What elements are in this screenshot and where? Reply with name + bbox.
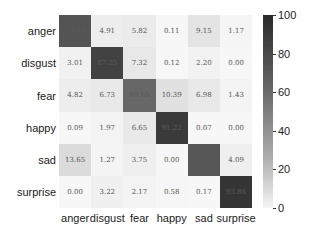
heatmap-cell: 0.00 <box>220 47 252 79</box>
row-label: surprise <box>17 186 56 198</box>
heatmap-cell: 3.22 <box>91 176 123 208</box>
heatmap-cell: 78.84 <box>59 15 91 47</box>
column-label: disgust <box>90 212 125 224</box>
heatmap-cell: 0.00 <box>220 112 252 144</box>
heatmap-cell: 6.73 <box>91 79 123 111</box>
heatmap-cell: 77.24 <box>188 144 220 176</box>
colorbar-tick <box>273 208 276 209</box>
confusion-matrix-heatmap: angerdisgustfearhappysadsurpriseangerdis… <box>0 0 309 235</box>
column-label: happy <box>157 212 187 224</box>
colorbar-tick-label: 40 <box>278 125 290 137</box>
column-label: fear <box>130 212 149 224</box>
heatmap-cell: 87.35 <box>91 47 123 79</box>
colorbar-tick <box>273 15 276 16</box>
colorbar-tick <box>273 169 276 170</box>
colorbar-tick <box>273 131 276 132</box>
colorbar <box>263 15 273 208</box>
heatmap-cell: 9.15 <box>188 15 220 47</box>
heatmap-cell: 93.86 <box>220 176 252 208</box>
colorbar-tick-label: 0 <box>278 202 284 214</box>
colorbar-tick-label: 100 <box>278 9 296 21</box>
heatmap-cell: 91.22 <box>156 112 188 144</box>
heatmap-cell: 0.07 <box>188 112 220 144</box>
heatmap-cell: 10.39 <box>156 79 188 111</box>
heatmap-cell: 0.12 <box>156 47 188 79</box>
column-label: sad <box>195 212 213 224</box>
heatmap-cell: 6.65 <box>123 112 155 144</box>
heatmap-cell: 6.98 <box>188 79 220 111</box>
colorbar-tick <box>273 92 276 93</box>
row-label: fear <box>37 90 56 102</box>
heatmap-cell: 0.17 <box>188 176 220 208</box>
row-label: disgust <box>21 57 56 69</box>
heatmap-cell: 4.82 <box>59 79 91 111</box>
heatmap-cell: 2.17 <box>123 176 155 208</box>
heatmap-cell: 4.09 <box>220 144 252 176</box>
heatmap-cell: 5.82 <box>123 15 155 47</box>
heatmap-cell: 13.65 <box>59 144 91 176</box>
heatmap-cell: 2.20 <box>188 47 220 79</box>
heatmap-cell: 0.00 <box>59 176 91 208</box>
heatmap-cell: 3.01 <box>59 47 91 79</box>
heatmap-cell: 0.00 <box>156 144 188 176</box>
colorbar-tick-label: 80 <box>278 48 290 60</box>
heatmap-cell: 1.43 <box>220 79 252 111</box>
colorbar-tick-label: 60 <box>278 86 290 98</box>
heatmap-cell: 7.32 <box>123 47 155 79</box>
column-label: anger <box>61 212 89 224</box>
heatmap-cell: 4.91 <box>91 15 123 47</box>
heatmap-cell: 3.75 <box>123 144 155 176</box>
column-label: surprise <box>217 212 256 224</box>
row-label: happy <box>26 122 56 134</box>
colorbar-tick <box>273 54 276 55</box>
heatmap-cell: 0.11 <box>156 15 188 47</box>
heatmap-cell: 1.27 <box>91 144 123 176</box>
row-label: sad <box>38 154 56 166</box>
heatmap-cell: 69.65 <box>123 79 155 111</box>
heatmap-cell: 1.97 <box>91 112 123 144</box>
heatmap-cell: 0.58 <box>156 176 188 208</box>
row-label: anger <box>28 25 56 37</box>
heatmap-cell: 1.17 <box>220 15 252 47</box>
heatmap-cell: 0.09 <box>59 112 91 144</box>
colorbar-tick-label: 20 <box>278 163 290 175</box>
